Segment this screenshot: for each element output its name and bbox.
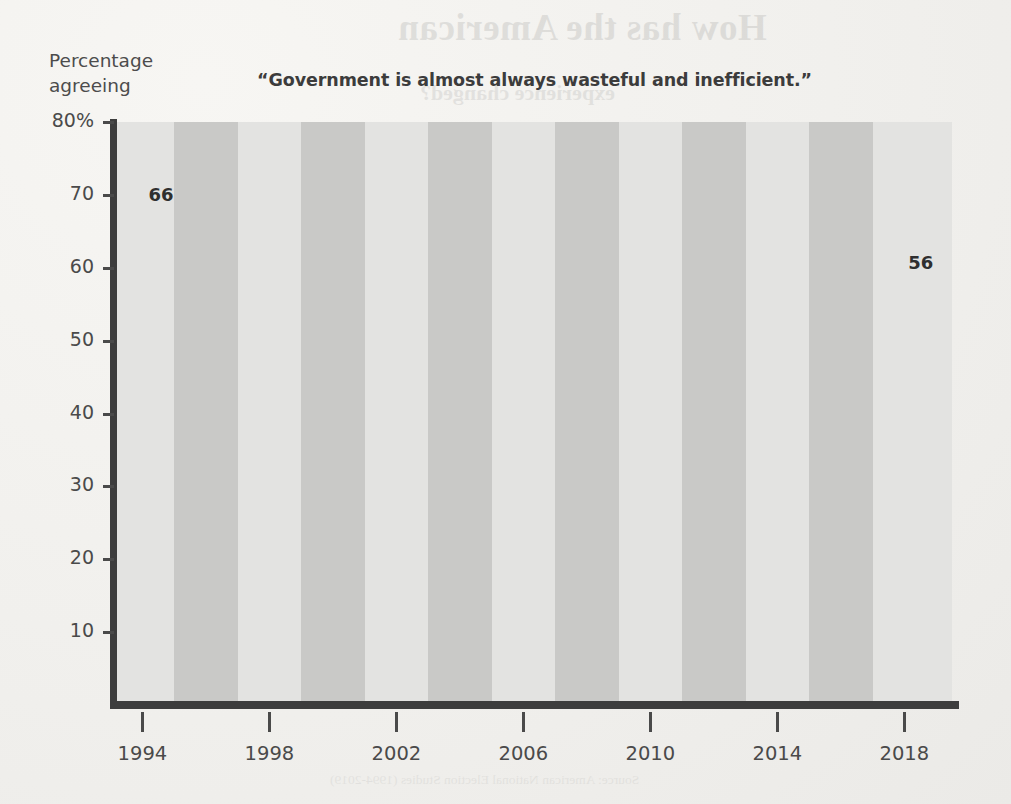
x-axis-spine [110,701,959,709]
y-tick-mark [103,485,114,488]
background-band [301,122,364,705]
y-tick-label: 10 [0,619,94,641]
background-band [682,122,745,705]
x-tick-label: 2018 [880,742,930,765]
start-value: 66 [148,184,173,205]
background-band [873,122,952,705]
y-tick-label: 50 [0,328,94,350]
y-tick-mark [103,631,114,634]
background-band [492,122,555,705]
x-tick-mark [522,712,525,732]
y-tick-mark [103,121,114,124]
x-tick-label: 1998 [245,742,295,765]
background-band [809,122,872,705]
background-band [238,122,301,705]
background-band [428,122,491,705]
x-tick-mark [776,712,779,732]
y-tick-label: 40 [0,401,94,423]
x-tick-label: 2010 [626,742,676,765]
background-band [555,122,618,705]
y-tick-mark [103,194,114,197]
chart-title: “Government is almost always wasteful an… [117,70,952,90]
x-tick-label: 1994 [118,742,168,765]
x-tick-label: 2002 [372,742,422,765]
plot-area [117,122,952,705]
y-tick-label: 80% [0,109,94,131]
end-value: 56 [908,252,933,273]
background-band [117,122,174,705]
background-bands [117,122,952,705]
background-band [619,122,682,705]
x-tick-label: 2014 [753,742,803,765]
x-tick-mark [268,712,271,732]
background-band [174,122,237,705]
x-tick-mark [395,712,398,732]
y-tick-mark [103,413,114,416]
y-tick-label: 30 [0,473,94,495]
x-tick-mark [903,712,906,732]
y-tick-label: 20 [0,546,94,568]
y-tick-mark [103,340,114,343]
x-tick-mark [141,712,144,732]
x-tick-label: 2006 [499,742,549,765]
x-tick-mark [649,712,652,732]
y-tick-mark [103,267,114,270]
y-tick-mark [103,558,114,561]
y-tick-label: 60 [0,255,94,277]
y-tick-label: 70 [0,182,94,204]
chart-figure: Percentage agreeing “Government is almos… [0,0,1011,804]
background-band [746,122,809,705]
background-band [365,122,428,705]
